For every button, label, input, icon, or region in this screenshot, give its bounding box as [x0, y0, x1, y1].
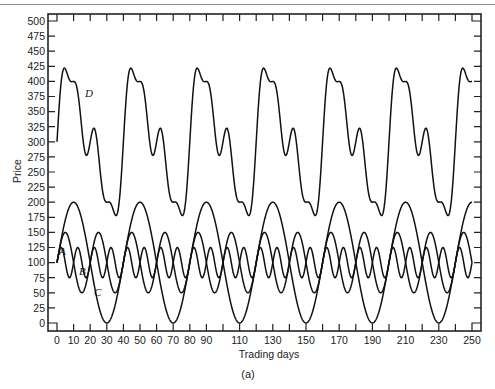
x-tick-label: 230	[430, 334, 448, 346]
y-tick-label: 75	[33, 272, 45, 284]
x-tick-label: 40	[118, 334, 130, 346]
x-tick-label: 90	[201, 334, 213, 346]
y-axis-title: Price	[11, 159, 23, 183]
curve-label-b: B	[79, 265, 86, 277]
curve-label-d: D	[84, 87, 93, 99]
y-tick-label: 275	[27, 151, 45, 163]
y-tick-label: 125	[27, 241, 45, 253]
y-tick-label: 250	[27, 166, 45, 178]
y-tick-label: 350	[27, 105, 45, 117]
x-tick-label: 210	[397, 334, 415, 346]
y-tick-label: 225	[27, 181, 45, 193]
y-tick-label: 325	[27, 121, 45, 133]
x-tick-label: 30	[101, 334, 113, 346]
x-tick-label: 60	[151, 334, 163, 346]
y-tick-label: 50	[33, 287, 45, 299]
y-tick-label: 200	[27, 196, 45, 208]
x-tick-label: 0	[54, 334, 60, 346]
curve-label-c: C	[94, 286, 102, 298]
x-tick-labels: 0102030405060708090110130150170190210230…	[54, 334, 481, 346]
y-tick-label: 100	[27, 256, 45, 268]
y-tick-labels: 0255075100125150175200225250275300325350…	[27, 15, 45, 329]
curves	[57, 68, 472, 323]
x-tick-label: 170	[330, 334, 348, 346]
y-tick-label: 175	[27, 211, 45, 223]
y-tick-label: 0	[39, 317, 45, 329]
y-tick-label: 375	[27, 90, 45, 102]
x-tick-label: 250	[463, 334, 481, 346]
price-chart: 0102030405060708090110130150170190210230…	[0, 0, 495, 389]
y-tick-label: 500	[27, 15, 45, 27]
y-tick-label: 475	[27, 30, 45, 42]
x-tick-label: 10	[68, 334, 80, 346]
plot-border	[48, 14, 481, 331]
y-tick-label: 425	[27, 60, 45, 72]
x-tick-label: 70	[167, 334, 179, 346]
y-tick-label: 25	[33, 302, 45, 314]
x-tick-label: 110	[231, 334, 248, 346]
x-tick-label: 190	[364, 334, 382, 346]
x-tick-label: 80	[184, 334, 196, 346]
figure-caption: (a)	[241, 368, 254, 380]
y-tick-label: 400	[27, 75, 45, 87]
axis-ticks	[48, 14, 481, 331]
x-tick-label: 20	[84, 334, 96, 346]
x-tick-label: 50	[134, 334, 146, 346]
y-tick-label: 300	[27, 136, 45, 148]
curve-a	[57, 248, 472, 278]
curve-label-a: A	[58, 245, 66, 257]
plot-frame	[48, 14, 481, 331]
y-tick-label: 150	[27, 226, 45, 238]
x-axis-title: Trading days	[239, 348, 299, 360]
curve-d	[57, 68, 472, 215]
y-tick-label: 450	[27, 45, 45, 57]
x-tick-label: 130	[264, 334, 282, 346]
x-tick-label: 150	[297, 334, 315, 346]
